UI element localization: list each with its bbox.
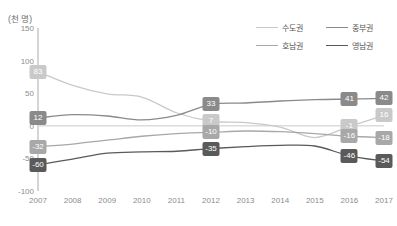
point-label-중부권-2016: 41 <box>341 92 358 106</box>
point-label-영남권-2017: -54 <box>376 154 393 168</box>
point-label-호남권-2012: -10 <box>203 125 220 139</box>
x-tick-2008: 2008 <box>55 196 91 205</box>
x-tick-2011: 2011 <box>158 196 194 205</box>
x-tick-2012: 2012 <box>193 196 229 205</box>
point-label-호남권-2016: -16 <box>341 129 358 143</box>
point-label-중부권-2012: 33 <box>203 97 220 111</box>
x-tick-2013: 2013 <box>228 196 264 205</box>
point-label-영남권-2007: -60 <box>30 158 47 172</box>
x-tick-2015: 2015 <box>297 196 333 205</box>
point-label-호남권-2017: -18 <box>376 131 393 145</box>
x-tick-2007: 2007 <box>20 196 56 205</box>
x-tick-2009: 2009 <box>89 196 125 205</box>
point-label-중부권-2017: 42 <box>376 91 393 105</box>
x-tick-2014: 2014 <box>262 196 298 205</box>
point-label-호남권-2007: -32 <box>30 140 47 154</box>
y-tick-50: 50 <box>8 89 34 98</box>
y-tick--100: -100 <box>8 187 34 196</box>
point-label-중부권-2007: 12 <box>30 111 47 125</box>
x-tick-2016: 2016 <box>331 196 367 205</box>
x-tick-2017: 2017 <box>366 196 397 205</box>
y-tick-150: 150 <box>8 24 34 33</box>
chart-container: (천 명) 150100500-50-100 수도권중부권호남권영남권 2007… <box>0 0 397 226</box>
point-label-영남권-2012: -35 <box>203 142 220 156</box>
point-label-수도권-2007: 83 <box>30 65 47 79</box>
point-label-영남권-2016: -46 <box>341 149 358 163</box>
x-tick-2010: 2010 <box>124 196 160 205</box>
point-label-수도권-2017: 16 <box>376 108 393 122</box>
